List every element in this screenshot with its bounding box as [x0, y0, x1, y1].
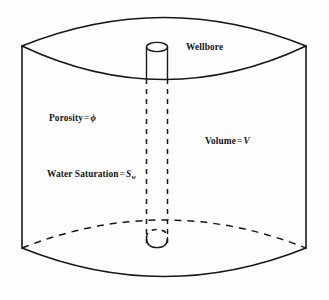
label-porosity-equals: = [83, 113, 90, 123]
label-volume-symbol: V [243, 136, 249, 146]
label-water-saturation-text: Water Saturation [47, 169, 119, 179]
cylinder-bottom-back-arc-hidden [22, 220, 306, 248]
label-volume-text: Volume [205, 136, 236, 146]
wellbore-bottom-front-arc [147, 238, 168, 248]
cylinder-bottom-front-arc [22, 248, 306, 277]
label-water-saturation: Water Saturation=Sw [47, 170, 136, 179]
cylinder-drawing [0, 0, 329, 300]
label-porosity-text: Porosity [49, 113, 83, 123]
label-water-saturation-equals: = [119, 169, 126, 179]
label-wellbore-text: Wellbore [186, 42, 223, 52]
wellbore-top-rim-ellipse [147, 42, 168, 51]
reservoir-volume-diagram: Wellbore Porosity=ϕ Volume=V Water Satur… [0, 0, 329, 300]
wellbore-bottom-back-arc-hidden [147, 230, 168, 238]
label-porosity-symbol: ϕ [91, 113, 97, 123]
cylinder-top-back-arc [22, 18, 306, 47]
label-wellbore: Wellbore [186, 43, 223, 52]
label-porosity: Porosity=ϕ [49, 114, 96, 123]
label-volume: Volume=V [205, 137, 250, 146]
label-water-saturation-subscript: w [131, 173, 135, 180]
